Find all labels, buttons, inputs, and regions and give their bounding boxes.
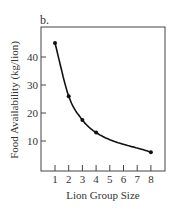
x-tick-label: 3	[80, 173, 86, 185]
y-axis: 10203040	[27, 51, 46, 147]
panel-label: b.	[40, 13, 49, 27]
y-tick-label: 10	[27, 135, 39, 147]
x-tick-label: 6	[121, 173, 127, 185]
x-tick-label: 7	[134, 173, 140, 185]
x-axis-label: Lion Group Size	[66, 189, 139, 201]
y-tick-label: 20	[27, 107, 39, 119]
data-point	[53, 41, 57, 45]
y-axis-label: Food Availability (kg/lion)	[8, 41, 21, 159]
data-point	[80, 118, 84, 122]
y-tick-label: 30	[27, 79, 39, 91]
x-tick-label: 1	[52, 173, 58, 185]
plot-frame	[41, 27, 165, 171]
x-tick-label: 2	[66, 173, 72, 185]
y-tick-label: 40	[27, 51, 39, 63]
x-tick-label: 8	[148, 173, 154, 185]
data-point	[94, 131, 98, 135]
x-tick-label: 5	[107, 173, 113, 185]
x-tick-label: 4	[93, 173, 99, 185]
data-point	[149, 150, 153, 154]
data-point	[67, 94, 71, 98]
chart: b. 10203040 12345678 Lion Group Size Foo…	[0, 0, 176, 218]
x-axis: 12345678	[52, 165, 154, 185]
